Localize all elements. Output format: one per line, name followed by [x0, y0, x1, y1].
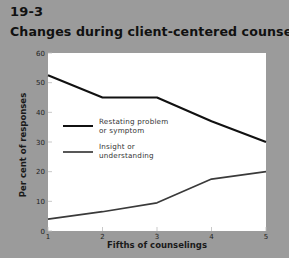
y-tick-label: 40: [36, 109, 45, 117]
x-axis-label: Fifths of counselings: [107, 240, 207, 250]
y-tick-label: 0: [41, 228, 45, 236]
y-tick-label: 30: [36, 139, 45, 147]
legend-label-insight: Insight or understanding: [99, 142, 154, 160]
y-axis-label: Per cent of responses: [18, 93, 28, 197]
y-tick-label: 60: [36, 50, 45, 58]
x-tick-label: 4: [209, 233, 214, 241]
x-tick-label: 5: [264, 233, 268, 241]
plot-area: [48, 53, 266, 231]
x-tick-label: 2: [100, 233, 104, 241]
y-tick-label: 50: [36, 79, 45, 87]
legend-label-restating: Restating problem or symptom: [99, 117, 168, 135]
y-tick-label: 20: [36, 168, 45, 176]
x-tick-label: 1: [46, 233, 50, 241]
y-tick-label: 10: [36, 198, 45, 206]
